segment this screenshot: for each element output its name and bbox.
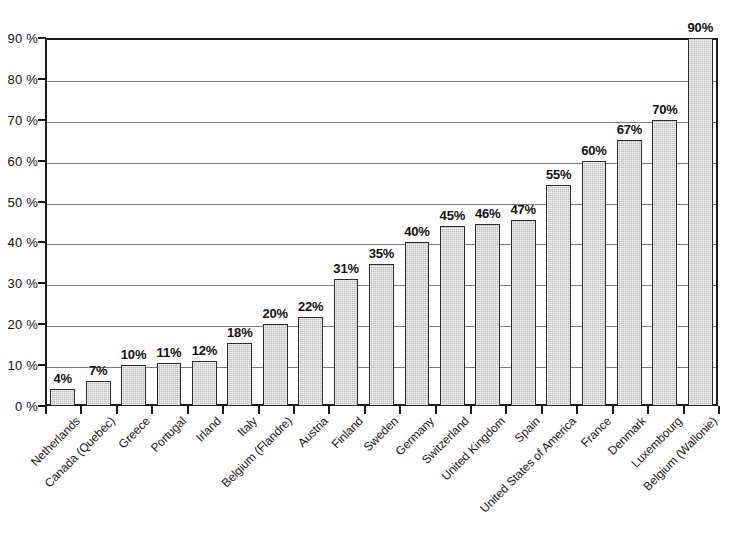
- x-axis-category-label: Portugal: [148, 414, 189, 455]
- x-axis-category-label: Austria: [295, 414, 331, 450]
- x-axis-category-label: Finland: [329, 414, 366, 451]
- x-axis-category-label: Spain: [512, 414, 543, 445]
- bar-chart: 0 %10 %20 %30 %40 %50 %60 %70 %80 %90 % …: [0, 0, 750, 552]
- x-axis-category-label: United Kingdom: [438, 414, 507, 483]
- x-axis-category-label: Irland: [194, 414, 225, 445]
- x-axis-labels: NetherlandsCanada (Quebec)GreecePortugal…: [0, 0, 750, 552]
- x-axis-category-label: Italy: [235, 414, 260, 439]
